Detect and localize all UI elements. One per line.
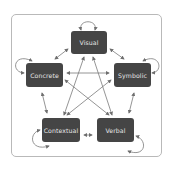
node-visual-label: Visual xyxy=(79,39,98,46)
edge-symbolic-contextual xyxy=(67,80,111,115)
node-concrete: Concrete xyxy=(26,63,63,87)
node-concrete-label: Concrete xyxy=(30,72,59,79)
node-visual: Visual xyxy=(71,31,107,54)
loop-visual xyxy=(81,22,96,30)
node-symbolic-label: Symbolic xyxy=(118,72,147,79)
node-verbal: Verbal xyxy=(97,118,134,142)
edge-visual-contextual xyxy=(64,57,84,115)
node-contextual-label: Contextual xyxy=(44,127,79,134)
node-symbolic: Symbolic xyxy=(114,63,151,87)
edge-symbolic-verbal xyxy=(129,93,134,113)
edge-visual-concrete xyxy=(55,49,68,59)
node-verbal-label: Verbal xyxy=(105,127,125,134)
edge-concrete-contextual xyxy=(42,93,47,113)
node-contextual: Contextual xyxy=(42,118,80,142)
edge-visual-verbal xyxy=(93,57,112,115)
edge-visual-symbolic xyxy=(110,49,124,59)
